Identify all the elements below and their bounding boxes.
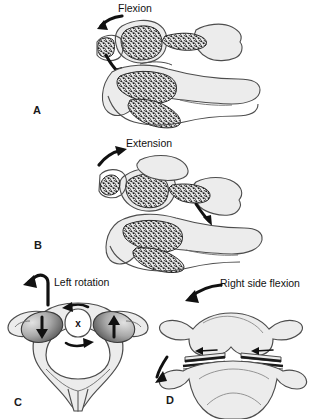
axis-marker-x: x xyxy=(75,318,81,329)
panel-a-flexion: Flexion A xyxy=(0,0,311,130)
panel-a-illustration xyxy=(0,0,311,130)
panel-c-left-rotation: Left rotation C xyxy=(0,265,156,419)
flexion-arrow-icon xyxy=(97,16,122,30)
panel-b-illustration xyxy=(0,130,311,265)
panel-d-illustration xyxy=(155,265,311,419)
panel-c-illustration: x xyxy=(0,265,156,419)
right-side-flexion-arrow-icon xyxy=(185,285,221,303)
left-rotation-arrow-icon xyxy=(23,275,48,305)
anatomical-figure: Flexion A xyxy=(0,0,311,419)
upper-vertebra xyxy=(160,313,303,356)
lower-left-flexion-arrow-icon xyxy=(155,357,167,383)
extension-arrow-icon xyxy=(99,146,127,165)
panel-d-right-side-flexion: Right side flexion D xyxy=(155,265,311,419)
lower-vertebra xyxy=(159,361,306,419)
panel-b-extension: Extension B xyxy=(0,130,311,265)
